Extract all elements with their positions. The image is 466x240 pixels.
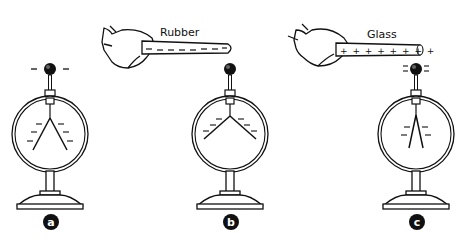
glass-rod-charges: + + + + + + + +	[340, 46, 435, 56]
glass-label: Glass	[367, 28, 397, 41]
badge-b-label: b	[227, 216, 235, 229]
rubber-label: Rubber	[160, 26, 200, 39]
electroscope-c: Glass + + + + + + + + c	[288, 24, 454, 230]
ball-a	[44, 63, 56, 75]
rubber-rod	[142, 41, 231, 54]
electroscope-diagram: a Rubber	[0, 0, 466, 240]
ball-c	[410, 63, 422, 75]
badge-a-label: a	[47, 216, 54, 229]
badge-c-label: c	[414, 216, 421, 229]
ball-b	[224, 63, 236, 75]
electroscope-b: Rubber b	[102, 26, 268, 230]
electroscope-a: a	[12, 63, 88, 230]
